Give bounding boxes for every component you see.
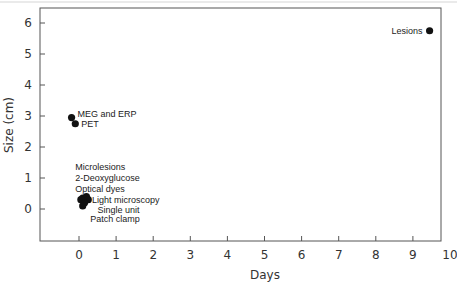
y-tick-label: 0 xyxy=(24,202,32,216)
y-axis-title: Size (cm) xyxy=(2,97,16,153)
x-tick-label: 1 xyxy=(112,248,120,262)
cluster-label: Optical dyes xyxy=(75,184,125,194)
cluster-label: Microlesions xyxy=(75,162,126,172)
y-tick-label: 2 xyxy=(24,140,32,154)
y-tick-label: 6 xyxy=(24,16,32,30)
x-tick-label: 7 xyxy=(335,248,343,262)
cluster-label: 2-Deoxyglucose xyxy=(75,173,140,183)
point-labels: LesionsMEG and ERPPETMicrolesions2-Deoxy… xyxy=(75,26,423,224)
data-point xyxy=(426,27,433,34)
y-axis: 0123456 xyxy=(24,16,45,216)
x-axis-title: Days xyxy=(250,268,280,282)
y-tick-label: 3 xyxy=(24,109,32,123)
x-tick-label: 5 xyxy=(261,248,269,262)
point-label: Lesions xyxy=(392,26,424,36)
x-tick-label: 3 xyxy=(186,248,194,262)
x-tick-label: 2 xyxy=(149,248,157,262)
x-tick-label: 4 xyxy=(224,248,232,262)
point-label: PET xyxy=(81,119,99,129)
x-tick-label: 8 xyxy=(372,248,380,262)
x-tick-label: 10 xyxy=(442,248,457,262)
x-tick-label: 0 xyxy=(75,248,83,262)
scatter-chart: 0123456 012345678910 LesionsMEG and ERPP… xyxy=(0,0,457,287)
data-point xyxy=(72,120,79,127)
cluster-label: Patch clamp xyxy=(90,214,140,224)
data-point xyxy=(79,202,86,209)
x-tick-label: 6 xyxy=(298,248,306,262)
data-point xyxy=(68,114,75,121)
x-tick-label: 9 xyxy=(409,248,417,262)
y-tick-label: 5 xyxy=(24,47,32,61)
y-tick-label: 1 xyxy=(24,171,32,185)
cluster-label: Light microscopy xyxy=(92,195,160,205)
point-label: MEG and ERP xyxy=(78,109,137,119)
x-axis: 012345678910 xyxy=(75,236,457,262)
y-tick-label: 4 xyxy=(24,78,32,92)
